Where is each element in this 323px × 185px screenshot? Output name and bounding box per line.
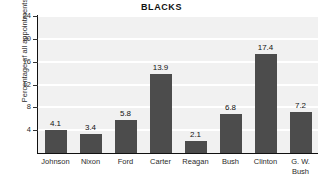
bar (115, 120, 137, 153)
bar-chart: BLACKS Percentage of all appointments 48… (0, 0, 323, 185)
y-tick-mark (33, 130, 38, 131)
bar (255, 54, 277, 153)
bar (150, 74, 172, 153)
bar (220, 114, 242, 153)
x-axis-line (37, 153, 318, 154)
bar (185, 141, 207, 153)
bar-value-label: 7.2 (283, 101, 318, 110)
gridline (38, 38, 318, 40)
chart-title: BLACKS (0, 1, 323, 13)
y-tick-label: 20 (12, 35, 31, 43)
y-tick-mark (33, 16, 38, 17)
bar (45, 130, 67, 153)
bar (80, 134, 102, 153)
bar-value-label: 13.9 (143, 63, 178, 72)
bar (290, 112, 312, 153)
y-tick-label: 4 (12, 126, 31, 134)
bar-value-label: 4.1 (38, 119, 73, 128)
bar-value-label: 5.8 (108, 109, 143, 118)
bar-value-label: 17.4 (248, 43, 283, 52)
gridline (38, 16, 318, 17)
y-tick-label: 12 (12, 81, 31, 89)
y-tick-label: 8 (12, 103, 31, 111)
y-tick-mark (33, 62, 38, 63)
bar-value-label: 2.1 (178, 130, 213, 139)
y-tick-label: 16 (12, 58, 31, 66)
bar-value-label: 3.4 (73, 123, 108, 132)
bar-value-label: 6.8 (213, 103, 248, 112)
x-tick-label: G. W. Bush (277, 157, 323, 176)
y-tick-mark (33, 85, 38, 86)
y-tick-mark (33, 107, 38, 108)
y-tick-label: 24 (12, 12, 31, 20)
y-tick-mark (33, 39, 38, 40)
